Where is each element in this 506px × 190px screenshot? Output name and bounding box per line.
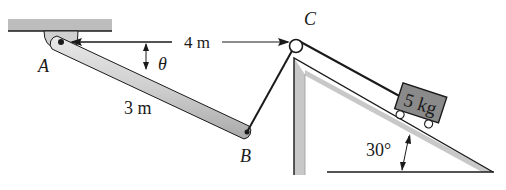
dimension-4m-label: 4 m (184, 33, 210, 52)
point-b-label: B (240, 146, 251, 166)
ceiling-support (8, 19, 112, 31)
incline-structure (294, 58, 494, 175)
point-a-label: A (37, 56, 50, 76)
arrow-up-icon (405, 134, 411, 144)
theta-indicator: θ (143, 43, 167, 74)
pulley-c-icon (290, 40, 303, 53)
incline-angle-label: 30° (366, 140, 391, 160)
point-c-label: C (304, 9, 317, 29)
bar-ab (50, 36, 251, 139)
incline-angle-indicator: 30° (366, 134, 411, 171)
mechanics-diagram: 4 m θ A 3 m B C 5 kg 30° (0, 0, 506, 190)
arrow-up-icon (143, 43, 149, 51)
theta-label: θ (158, 54, 167, 74)
arrow-down-icon (400, 162, 406, 171)
cord-bc (247, 49, 293, 132)
dimension-4m: 4 m (70, 33, 290, 52)
pin-a-icon (58, 39, 64, 45)
bar-length-label: 3 m (124, 98, 152, 118)
arrow-down-icon (143, 62, 149, 70)
